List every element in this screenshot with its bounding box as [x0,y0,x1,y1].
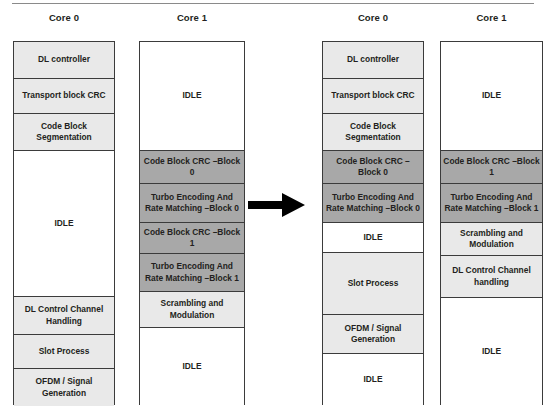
task-block[interactable]: OFDM / Signal Generation [14,369,114,406]
task-label: Turbo Encoding And Rate Matching –Block … [142,192,242,214]
idle-block[interactable]: IDLE [441,42,542,151]
task-label: Scrambling and Modulation [443,228,540,250]
task-label: Code Block CRC –Block 1 [443,156,540,178]
task-label: IDLE [142,90,242,101]
task-label: Code Block CRC –Block 0 [325,156,421,178]
timeline-column-left-core-0: DL controller Transport block CRC Code B… [13,41,115,405]
task-block[interactable]: Code Block Segmentation [14,114,114,151]
idle-block[interactable]: IDLE [140,328,244,406]
idle-block[interactable]: IDLE [441,298,542,406]
column-title-right-core-0: Core 0 [322,12,424,23]
task-label: Turbo Encoding And Rate Matching –Block … [142,261,242,283]
timeline-column-right-core-1: IDLE Code Block CRC –Block 1 Turbo Encod… [440,41,543,405]
task-block[interactable]: DL controller [323,42,423,79]
task-label: Code Block Segmentation [16,121,112,143]
task-block[interactable]: DL controller [14,42,114,79]
task-label: OFDM / Signal Generation [325,323,421,345]
task-label: IDLE [325,232,421,243]
task-label: IDLE [325,374,421,385]
timeline-column-left-core-1: IDLE Code Block CRC –Block 0 Turbo Encod… [139,41,245,405]
task-label: OFDM / Signal Generation [16,376,112,398]
task-label: Turbo Encoding And Rate Matching –Block … [325,192,421,214]
column-title-left-core-0: Core 0 [13,12,115,23]
task-label: DL Control Channel Handling [16,304,112,326]
task-label: IDLE [142,361,242,372]
arrow-right-icon [248,192,306,218]
task-block[interactable]: Code Block CRC –Block 1 [441,151,542,184]
timeline-column-right-core-0: DL controller Transport block CRC Code B… [322,41,424,405]
task-label: IDLE [443,346,540,357]
task-label: Scrambling and Modulation [142,298,242,320]
task-label: IDLE [16,218,112,229]
task-label: Code Block CRC –Block 0 [142,156,242,178]
task-label: DL Control Channel handling [443,265,540,287]
header-rule [12,3,534,4]
task-label: Code Block CRC –Block 1 [142,227,242,249]
task-block[interactable]: Code Block CRC –Block 0 [323,151,423,184]
task-block[interactable]: Scrambling and Modulation [140,292,244,328]
task-block[interactable]: Transport block CRC [14,79,114,114]
task-block[interactable]: Turbo Encoding And Rate Matching –Block … [140,184,244,223]
task-label: DL controller [325,54,421,65]
task-block[interactable]: DL Control Channel Handling [14,297,114,335]
idle-block[interactable]: IDLE [323,223,423,253]
task-block[interactable]: Code Block CRC –Block 1 [140,223,244,254]
task-label: Turbo Encoding And Rate Matching –Block … [443,192,540,214]
task-label: IDLE [443,90,540,101]
task-label: Slot Process [325,278,421,289]
task-block[interactable]: OFDM / Signal Generation [323,315,423,354]
idle-block[interactable]: IDLE [140,42,244,151]
task-label: Transport block CRC [325,90,421,101]
task-block[interactable]: Turbo Encoding And Rate Matching –Block … [323,184,423,223]
task-block[interactable]: Code Block Segmentation [323,114,423,151]
task-block[interactable]: Slot Process [14,335,114,369]
task-block[interactable]: Code Block CRC –Block 0 [140,151,244,184]
task-label: Transport block CRC [16,90,112,101]
idle-block[interactable]: IDLE [323,354,423,406]
idle-block[interactable]: IDLE [14,151,114,297]
task-block[interactable]: Turbo Encoding And Rate Matching –Block … [140,254,244,292]
task-block[interactable]: DL Control Channel handling [441,256,542,298]
column-title-left-core-1: Core 1 [139,12,245,23]
column-title-right-core-1: Core 1 [440,12,543,23]
task-block[interactable]: Transport block CRC [323,79,423,114]
task-label: Slot Process [16,346,112,357]
task-label: Code Block Segmentation [325,121,421,143]
task-label: DL controller [16,54,112,65]
task-block[interactable]: Scrambling and Modulation [441,223,542,256]
task-block[interactable]: Turbo Encoding And Rate Matching –Block … [441,184,542,223]
task-block[interactable]: Slot Process [323,253,423,315]
diagram-canvas: Core 0 Core 1 Core 0 Core 1 DL controlle… [0,0,549,419]
